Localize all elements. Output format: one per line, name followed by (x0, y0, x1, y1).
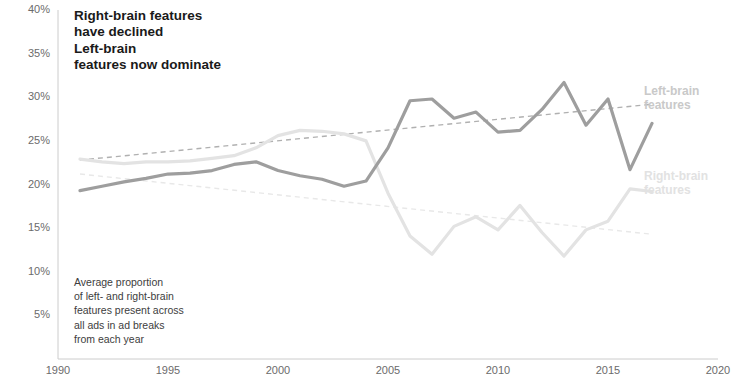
x-tick-label: 2015 (588, 364, 628, 376)
y-tick-label: 35% (16, 47, 50, 59)
chart-footnote: Average proportion of left- and right-br… (74, 275, 184, 346)
y-tick-label: 25% (16, 134, 50, 146)
x-tick-label: 1990 (38, 364, 78, 376)
y-tick-label: 40% (16, 3, 50, 15)
left-brain-series-label: Left-brain features (644, 85, 699, 113)
y-tick-label: 5% (16, 308, 50, 320)
x-tick-label: 1995 (148, 364, 188, 376)
left-brain-series-line (80, 82, 652, 190)
x-tick-label: 2000 (258, 364, 298, 376)
y-tick-label: 30% (16, 90, 50, 102)
y-tick-label: 20% (16, 178, 50, 190)
x-tick-label: 2005 (368, 364, 408, 376)
y-tick-label: 10% (16, 265, 50, 277)
y-tick-label: 15% (16, 221, 50, 233)
right-brain-trendline (80, 174, 652, 234)
x-tick-label: 2020 (698, 364, 735, 376)
right-brain-series-line (80, 130, 652, 256)
left-brain-trendline (80, 104, 652, 160)
chart-title: Right-brain features have declined Left-… (74, 8, 221, 74)
right-brain-series-label: Right-brain features (644, 170, 708, 198)
x-tick-label: 2010 (478, 364, 518, 376)
